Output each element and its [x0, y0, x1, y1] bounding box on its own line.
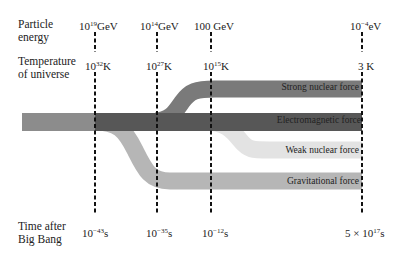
base: 10 — [146, 227, 157, 239]
unit: K — [221, 60, 229, 72]
unit: GeV — [158, 20, 179, 32]
base: 10 — [202, 227, 213, 239]
unit: s — [104, 227, 108, 239]
unit: K — [364, 60, 375, 72]
time-label: 10−12s — [202, 227, 228, 239]
base: 5 × 10 — [345, 227, 373, 239]
temperature-label: 1015K — [203, 60, 229, 72]
unit: K — [164, 60, 172, 72]
base: 10 — [203, 60, 214, 72]
base: 10 — [85, 60, 96, 72]
exponent: 15 — [214, 60, 221, 68]
weak-nuclear-force-label: Weak nuclear force — [285, 145, 359, 155]
energy-label: 100 GeV — [194, 20, 234, 32]
exponent: −12 — [213, 227, 224, 235]
base: 10 — [82, 227, 93, 239]
unit: eV — [368, 20, 381, 32]
force-unification-diagram — [0, 0, 405, 254]
unit: GeV — [211, 20, 235, 32]
time-label: 5 × 1017s — [345, 227, 385, 239]
energy-label: 10−4eV — [350, 20, 381, 32]
exponent: 27 — [157, 60, 164, 68]
temperature-label: 1027K — [146, 60, 172, 72]
exponent: 19 — [90, 20, 97, 28]
energy-label: 1014GeV — [140, 20, 179, 32]
electromagnetic-force-label: Electromagnetic force — [277, 115, 361, 125]
temperature-label: 1032K — [85, 60, 111, 72]
exponent: 14 — [151, 20, 158, 28]
time-label: 10−35s — [146, 227, 172, 239]
exponent: 32 — [96, 60, 103, 68]
base: 10 — [146, 60, 157, 72]
time-label: 10−43s — [82, 227, 108, 239]
gravitational-force-label: Gravitational force — [287, 176, 359, 186]
unit: s — [380, 227, 384, 239]
energy-label: 1019GeV — [79, 20, 118, 32]
unit: s — [168, 227, 172, 239]
base: 100 — [194, 20, 211, 32]
unit: s — [224, 227, 228, 239]
base: 10 — [79, 20, 90, 32]
exponent: −43 — [93, 227, 104, 235]
strong-nuclear-force-label: Strong nuclear force — [281, 82, 359, 92]
temperature-label: 3 K — [358, 60, 374, 72]
unit: K — [103, 60, 111, 72]
unified-force-band — [22, 113, 96, 131]
base: 10 — [140, 20, 151, 32]
base: 10 — [350, 20, 361, 32]
unit: GeV — [97, 20, 118, 32]
exponent: −35 — [157, 227, 168, 235]
